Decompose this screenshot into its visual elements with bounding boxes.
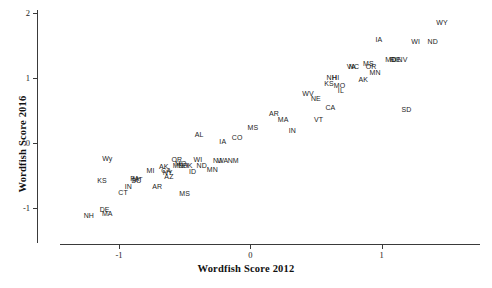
data-point-label: KS	[324, 80, 334, 87]
data-point-label: CO	[232, 134, 243, 141]
x-tick-mark	[250, 245, 251, 249]
y-tick-mark	[33, 13, 37, 14]
x-tick-label: 1	[379, 250, 383, 260]
x-tick-label: -1	[116, 250, 123, 260]
data-point-label: NE	[311, 95, 321, 102]
data-point-label: ID	[189, 167, 196, 174]
y-tick-mark	[33, 78, 37, 79]
data-point-label: WY	[436, 18, 447, 25]
scatter-plot-figure: -101 -1012 WYIAWINDMDRIDENVVANCMSORMNAKN…	[0, 0, 492, 288]
data-point-label: VT	[314, 115, 323, 122]
data-point-label: KS	[97, 176, 107, 183]
x-axis-line	[60, 244, 480, 245]
data-point-label: IN	[289, 127, 296, 134]
data-point-label: CA	[325, 103, 335, 110]
data-point-label: NH	[84, 211, 94, 218]
data-point-label: NM	[228, 156, 239, 163]
data-point-label: MA	[102, 210, 113, 217]
x-tick-mark	[382, 245, 383, 249]
data-point-label: NV	[398, 56, 408, 63]
data-point-label: ND	[428, 37, 438, 44]
data-point-label: IL	[338, 86, 344, 93]
data-point-label: IA	[219, 137, 226, 144]
data-point-label: NC	[349, 62, 359, 69]
x-tick-label: 0	[248, 250, 252, 260]
data-point-label: CT	[118, 189, 128, 196]
y-axis-title: Wordfish Score 2016	[17, 74, 28, 214]
y-tick-mark	[33, 208, 37, 209]
data-point-label: WA	[217, 156, 228, 163]
x-tick-mark	[119, 245, 120, 249]
data-point-label: AR	[152, 183, 162, 190]
data-point-label: MI	[147, 166, 155, 173]
y-tick-mark	[33, 143, 37, 144]
data-point-label: MA	[278, 115, 289, 122]
data-point-label: MN	[207, 165, 218, 172]
data-point-label: MT	[132, 176, 142, 183]
data-point-label: WI	[411, 37, 420, 44]
y-axis-line	[37, 10, 38, 243]
data-point-label: SD	[402, 105, 412, 112]
data-point-label: AK	[358, 75, 368, 82]
data-point-label: MS	[248, 124, 259, 131]
data-point-label: ND	[197, 161, 207, 168]
data-point-label: MN	[369, 68, 380, 75]
data-point-label: MS	[179, 190, 190, 197]
data-point-label: AL	[195, 131, 204, 138]
data-point-label: IA	[376, 36, 383, 43]
data-point-label: Wy	[102, 154, 112, 161]
data-point-label: AZ	[164, 172, 173, 179]
x-axis-title: Wordfish Score 2012	[198, 263, 295, 274]
y-tick-label: 2	[8, 8, 30, 18]
